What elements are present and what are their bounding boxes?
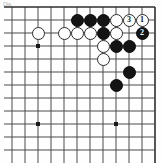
stone-black xyxy=(84,14,97,27)
stone-white xyxy=(71,27,84,40)
stone-black xyxy=(97,14,110,27)
stone-black xyxy=(110,79,123,92)
stone-white xyxy=(110,27,123,40)
stone-white-move-1: 1 xyxy=(136,14,149,27)
move-number-label: 3 xyxy=(124,15,135,26)
stone-black xyxy=(123,40,136,53)
stone-white xyxy=(32,27,45,40)
stone-white xyxy=(97,53,110,66)
star-point xyxy=(36,122,40,126)
stone-black xyxy=(97,27,110,40)
stone-white xyxy=(110,14,123,27)
go-board-diagram: Dia. 312 xyxy=(0,0,163,163)
stone-black xyxy=(71,14,84,27)
star-point xyxy=(114,122,118,126)
stone-black xyxy=(110,40,123,53)
star-point xyxy=(36,44,40,48)
stone-black xyxy=(123,66,136,79)
stone-white xyxy=(58,27,71,40)
stone-black-move-2: 2 xyxy=(136,27,149,40)
stone-white-move-3: 3 xyxy=(123,14,136,27)
move-number-label: 2 xyxy=(137,28,148,39)
move-number-label: 1 xyxy=(137,15,148,26)
stone-white xyxy=(84,27,97,40)
stone-white xyxy=(97,40,110,53)
